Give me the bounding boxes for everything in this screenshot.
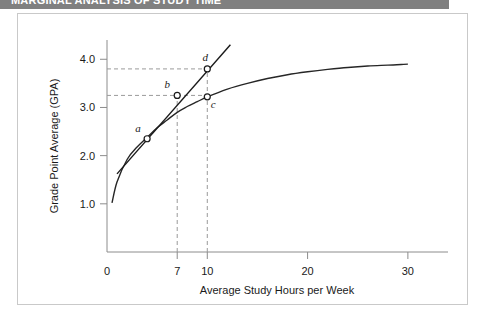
header-bar: MARGINAL ANALYSIS OF STUDY TIME bbox=[0, 0, 449, 9]
y-axis-ticks: 1.02.03.04.0 bbox=[80, 53, 107, 210]
point-marker-c bbox=[204, 94, 210, 100]
x-tick-label: 7 bbox=[174, 265, 180, 277]
x-tick-label: 30 bbox=[402, 265, 414, 277]
y-axis-title: Grade Point Average (GPA) bbox=[48, 79, 60, 214]
header-bar-title: MARGINAL ANALYSIS OF STUDY TIME bbox=[11, 0, 221, 6]
point-label-d: d bbox=[203, 51, 209, 63]
point-marker-a bbox=[144, 136, 150, 142]
y-tick-label: 3.0 bbox=[80, 101, 95, 113]
screenshot-root: MARGINAL ANALYSIS OF STUDY TIME 1.02.03.… bbox=[0, 0, 487, 322]
y-tick-label: 2.0 bbox=[80, 150, 95, 162]
y-tick-label: 1.0 bbox=[80, 198, 95, 210]
point-label-a: a bbox=[135, 122, 141, 134]
point-label-b: b bbox=[164, 78, 170, 90]
point-marker-d bbox=[204, 66, 210, 72]
guide-lines bbox=[107, 69, 207, 252]
gpa-study-hours-chart: 1.02.03.04.0 07102030 abcd Grade Point A… bbox=[18, 14, 467, 304]
x-axis-ticks: 07102030 bbox=[104, 252, 414, 277]
point-marker-b bbox=[174, 92, 180, 98]
point-label-c: c bbox=[211, 98, 216, 110]
x-tick-label: 0 bbox=[104, 265, 110, 277]
x-tick-label: 20 bbox=[301, 265, 313, 277]
series-0-total-curve bbox=[112, 64, 408, 203]
chart-points: abcd bbox=[135, 51, 215, 142]
x-axis-title: Average Study Hours per Week bbox=[200, 284, 355, 296]
y-tick-label: 4.0 bbox=[80, 53, 95, 65]
figure-frame: 1.02.03.04.0 07102030 abcd Grade Point A… bbox=[17, 13, 468, 305]
chart-axes bbox=[107, 40, 448, 252]
x-tick-label: 10 bbox=[201, 265, 213, 277]
